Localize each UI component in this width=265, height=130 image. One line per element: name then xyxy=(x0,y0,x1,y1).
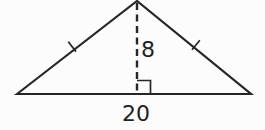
triangle-diagram-svg: 8 20 xyxy=(0,0,265,130)
triangle-figure: 8 20 xyxy=(0,0,265,130)
base-label: 20 xyxy=(122,101,150,126)
altitude-label: 8 xyxy=(141,37,155,62)
right-angle-marker-icon xyxy=(137,81,151,94)
triangle-outline xyxy=(17,1,251,94)
